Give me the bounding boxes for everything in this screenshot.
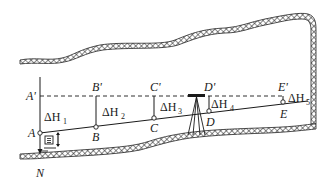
instrument-head xyxy=(188,94,205,97)
svg-text:5: 5 xyxy=(306,98,310,107)
point-A xyxy=(38,131,42,135)
svg-text:ΔH: ΔH xyxy=(211,97,228,111)
svg-text:4: 4 xyxy=(230,104,234,113)
label-D-prime: D' xyxy=(203,80,216,94)
svg-text:ΔH: ΔH xyxy=(44,110,61,124)
label-E-prime: E' xyxy=(277,80,288,94)
svg-text:ΔH: ΔH xyxy=(288,91,305,105)
label-B-prime: B' xyxy=(92,80,102,94)
label-A: A xyxy=(27,126,36,140)
label-E: E xyxy=(279,107,288,121)
svg-text:2: 2 xyxy=(121,112,125,121)
delta-h5-label: ΔH 5 xyxy=(288,91,310,107)
label-B: B xyxy=(92,130,100,144)
mark-bracket-A xyxy=(41,132,60,151)
delta-h4-label: ΔH 4 xyxy=(211,97,234,113)
svg-text:ΔH: ΔH xyxy=(102,105,119,119)
point-C xyxy=(152,116,156,120)
label-D: D xyxy=(205,115,215,129)
point-E xyxy=(281,100,285,104)
label-C-prime: C' xyxy=(150,80,161,94)
tunnel-leveling-diagram: A' B' C' D' E' A B C D E ΔH 1 ΔH 2 ΔH 3 … xyxy=(0,0,335,192)
label-A-prime: A' xyxy=(25,89,36,103)
label-N: N xyxy=(35,166,45,180)
point-B xyxy=(94,125,98,129)
delta-h2-label: ΔH 2 xyxy=(102,105,125,121)
svg-text:ΔH: ΔH xyxy=(160,100,177,114)
svg-text:1: 1 xyxy=(63,117,67,126)
svg-text:3: 3 xyxy=(178,107,182,116)
delta-h1-label: ΔH 1 xyxy=(44,110,67,126)
label-C: C xyxy=(150,121,159,135)
delta-h3-label: ΔH 3 xyxy=(160,100,182,116)
tunnel-floor xyxy=(20,124,316,159)
